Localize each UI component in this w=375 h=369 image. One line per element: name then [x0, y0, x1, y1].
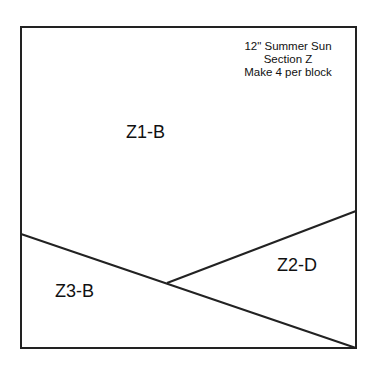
zone-label-z3-b: Z3-B: [55, 281, 94, 301]
zone-label-z2-d: Z2-D: [277, 255, 317, 275]
quantity-note: Make 4 per block: [238, 66, 338, 79]
seam-line-upper: [167, 211, 356, 283]
zone-label-z1-b: Z1-B: [126, 122, 165, 142]
block-title: 12" Summer Sun: [238, 40, 338, 53]
section-name: Section Z: [238, 53, 338, 66]
block-info: 12" Summer Sun Section Z Make 4 per bloc…: [238, 40, 338, 79]
